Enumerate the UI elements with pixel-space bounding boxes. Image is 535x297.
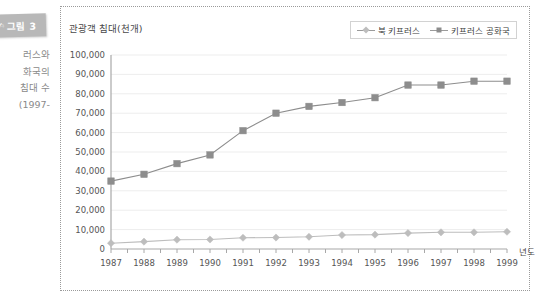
x-axis-tick-label: 1997: [430, 258, 452, 268]
x-axis-tick-label: 1988: [133, 258, 155, 268]
y-axis-tick-label: 60,000: [75, 128, 105, 138]
caption-line: 러스와: [0, 47, 50, 64]
figure-caption-column: ✍ 그림 3 러스와 화국의 침대 수 -1997): [0, 0, 58, 297]
y-axis-tick-label: 50,000: [75, 147, 105, 157]
y-axis-tick-label: 30,000: [75, 186, 105, 196]
caption-line: 화국의: [0, 64, 50, 81]
plot-area: 100,00090,00080,00070,00060,00050,00040,…: [111, 55, 507, 249]
legend-label: 북 키프러스: [378, 24, 421, 36]
x-axis-tick-label: 1989: [166, 258, 188, 268]
legend-label: 키프러스 공화국: [451, 24, 510, 36]
x-axis-tick-label: 1987: [100, 258, 122, 268]
x-axis-tick-label: 1998: [463, 258, 485, 268]
chart-panel: 관광객 침대(천개) 북 키프러스 키프러스 공화국 100,00090,000…: [60, 6, 530, 291]
diamond-marker-icon: [357, 30, 375, 31]
x-axis-tick-label: 1999: [496, 258, 518, 268]
y-axis-tick-label: 80,000: [75, 89, 105, 99]
y-axis-tick-label: 40,000: [75, 166, 105, 176]
legend-item-north-cyprus[interactable]: 북 키프러스: [357, 24, 421, 36]
pen-icon: ✍: [0, 21, 5, 30]
x-axis-tick-label: 1992: [265, 258, 287, 268]
figure-caption-text: 러스와 화국의 침대 수 -1997): [0, 47, 50, 113]
x-axis-tick-label: 1995: [364, 258, 386, 268]
y-axis-tick-label: 90,000: [75, 69, 105, 79]
legend-item-republic-of-cyprus[interactable]: 키프러스 공화국: [430, 24, 510, 36]
x-axis-tick-label: 1990: [199, 258, 221, 268]
figure-badge-label: 그림 3: [6, 18, 36, 33]
x-axis-tick-label: 1993: [298, 258, 320, 268]
y-axis-tick-label: 20,000: [75, 205, 105, 215]
plot-svg: [111, 55, 507, 249]
caption-line: -1997): [0, 97, 50, 114]
caption-line: 침대 수: [0, 80, 50, 97]
square-marker-icon: [430, 30, 448, 31]
x-axis-tick-label: 1994: [331, 258, 353, 268]
y-axis-tick-label: 0: [100, 244, 105, 254]
chart-legend: 북 키프러스 키프러스 공화국: [350, 21, 517, 39]
chart-title: 관광객 침대(천개): [69, 21, 142, 35]
figure-number-badge: ✍ 그림 3: [0, 13, 46, 38]
y-axis-tick-label: 70,000: [75, 108, 105, 118]
x-axis-tick-label: 1996: [397, 258, 419, 268]
y-axis-tick-label: 100,000: [70, 50, 105, 60]
x-axis-tick-label: 1991: [232, 258, 254, 268]
figure-page: ✍ 그림 3 러스와 화국의 침대 수 -1997) 관광객 침대(천개) 북 …: [0, 0, 535, 297]
x-axis-label: 년도: [519, 245, 535, 257]
y-axis-tick-label: 10,000: [75, 225, 105, 235]
